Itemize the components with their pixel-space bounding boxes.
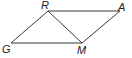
segment-GR xyxy=(11,11,48,43)
vertex-label-G: G xyxy=(2,43,11,55)
segment-AM xyxy=(82,11,120,43)
parallelogram-diagram: R A G M xyxy=(0,0,132,58)
vertex-label-R: R xyxy=(41,0,49,11)
diagonal-RM xyxy=(48,11,82,43)
vertex-label-A: A xyxy=(117,1,125,13)
vertex-label-M: M xyxy=(77,44,87,56)
